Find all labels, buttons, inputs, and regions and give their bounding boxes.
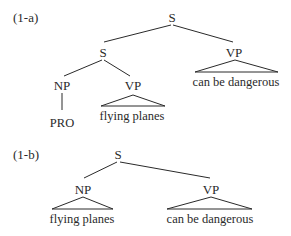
leaf-flying-planes: flying planes [100, 110, 165, 123]
edge-inner-s-to-np [64, 60, 102, 76]
edge-root-to-np-b [84, 162, 117, 178]
leaf-can-be-dangerous: can be dangerous [167, 213, 254, 226]
node-np: NP [75, 183, 92, 196]
edge-inner-s-to-vp [104, 60, 130, 76]
edge-root-to-inner-s [104, 25, 171, 42]
triangle-inner-vp [101, 95, 165, 106]
leaf-can-be-dangerous: can be dangerous [193, 76, 280, 89]
node-inner-vp: VP [125, 79, 142, 92]
triangle-outer-vp [195, 60, 278, 72]
triangle-np-b [52, 197, 113, 209]
example-label-1a: (1-a) [13, 11, 38, 24]
leaf-pro: PRO [50, 117, 74, 130]
node-outer-vp: VP [226, 46, 243, 59]
node-inner-s: S [99, 46, 106, 59]
triangle-vp-b [167, 197, 252, 209]
edge-root-to-outer-vp [173, 25, 233, 42]
edge-root-to-vp-b [120, 162, 210, 178]
node-root-s: S [168, 11, 175, 24]
node-vp: VP [203, 183, 220, 196]
leaf-flying-planes: flying planes [50, 213, 115, 226]
node-root-s: S [114, 148, 121, 161]
example-label-1b: (1-b) [13, 148, 39, 161]
node-np: NP [54, 79, 71, 92]
